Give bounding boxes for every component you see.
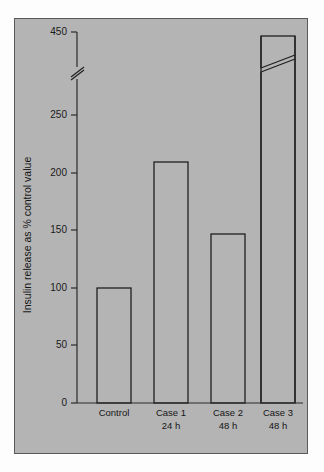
bar-case-1[interactable] [154, 162, 188, 403]
bar-case-2[interactable] [211, 234, 245, 403]
y-axis-title: Insulin release as % control value [21, 157, 33, 314]
x-sublabel-case-2: 48 h [219, 420, 238, 431]
bar-chart: Insulin release as % control value 45 [15, 19, 306, 452]
x-label-control: Control [99, 407, 130, 418]
x-label-case-1: Case 1 [156, 407, 186, 418]
y-axis-break-icon [71, 67, 84, 80]
x-tick-group-case-1: Case 1 24 h [156, 407, 186, 431]
x-tick-group-case-3: Case 3 48 h [263, 407, 293, 431]
x-label-case-3: Case 3 [263, 407, 293, 418]
x-sublabel-case-3: 48 h [269, 420, 288, 431]
y-tick-label-150: 150 [50, 224, 67, 235]
y-tick-label-450: 450 [50, 26, 67, 37]
y-tick-label-0: 0 [61, 397, 67, 408]
y-tick-label-200: 200 [50, 167, 67, 178]
y-tick-label-100: 100 [50, 282, 67, 293]
x-tick-group-control: Control [99, 407, 130, 418]
x-sublabel-case-1: 24 h [162, 420, 181, 431]
x-tick-group-case-2: Case 2 48 h [213, 407, 243, 431]
y-tick-label-250: 250 [50, 109, 67, 120]
bar-control[interactable] [97, 288, 131, 403]
bar-case-3[interactable] [261, 36, 295, 403]
y-tick-label-50: 50 [56, 339, 68, 350]
x-label-case-2: Case 2 [213, 407, 243, 418]
figure-canvas: Insulin release as % control value 45 [0, 0, 324, 472]
chart-plate: Insulin release as % control value 45 [14, 18, 308, 454]
